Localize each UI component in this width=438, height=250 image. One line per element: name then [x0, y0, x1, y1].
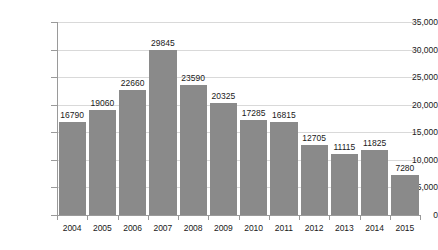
- bar[interactable]: [180, 85, 207, 215]
- x-axis-tick: [269, 215, 270, 220]
- bar-value-label: 23590: [174, 74, 213, 83]
- x-axis-tick: [390, 215, 391, 220]
- x-axis-tick: [57, 215, 58, 220]
- x-axis-tick: [148, 215, 149, 220]
- x-axis-tick: [208, 215, 209, 220]
- bar-value-label: 22660: [113, 79, 152, 88]
- plot-area: [57, 22, 420, 215]
- bar-value-label: 16790: [53, 111, 92, 120]
- x-axis-label: 2007: [148, 224, 178, 233]
- x-axis-label: 2004: [57, 224, 87, 233]
- x-axis-tick: [420, 215, 421, 220]
- x-axis-label: 2006: [118, 224, 148, 233]
- bar[interactable]: [89, 110, 116, 215]
- bar-value-label: 16815: [264, 111, 303, 120]
- bar[interactable]: [301, 145, 328, 215]
- bar-chart: 05,00010,00015,00020,00025,00030,00035,0…: [0, 0, 438, 250]
- bar-value-label: 7280: [385, 164, 424, 173]
- x-axis-label: 2011: [269, 224, 299, 233]
- bar[interactable]: [391, 175, 418, 215]
- bar-value-label: 12705: [295, 134, 334, 143]
- x-axis-tick: [87, 215, 88, 220]
- bar-value-label: 11825: [355, 139, 394, 148]
- bar[interactable]: [149, 50, 176, 215]
- bar[interactable]: [331, 154, 358, 215]
- x-axis-label: 2005: [87, 224, 117, 233]
- x-axis-label: 2010: [239, 224, 269, 233]
- bar[interactable]: [210, 103, 237, 215]
- x-axis-label: 2015: [390, 224, 420, 233]
- bar[interactable]: [59, 122, 86, 215]
- x-axis-tick: [118, 215, 119, 220]
- x-axis-label: 2009: [208, 224, 238, 233]
- x-axis-label: 2014: [360, 224, 390, 233]
- x-axis-label: 2012: [299, 224, 329, 233]
- bar[interactable]: [240, 120, 267, 215]
- x-axis-tick: [329, 215, 330, 220]
- x-axis-tick: [178, 215, 179, 220]
- bar-value-label: 20325: [204, 92, 243, 101]
- x-axis-label: 2008: [178, 224, 208, 233]
- bar[interactable]: [119, 90, 146, 215]
- bar-value-label: 29845: [143, 39, 182, 48]
- bar[interactable]: [361, 150, 388, 215]
- x-axis-label: 2013: [329, 224, 359, 233]
- x-axis-tick: [360, 215, 361, 220]
- x-axis-tick: [299, 215, 300, 220]
- x-axis-tick: [239, 215, 240, 220]
- bar-value-label: 19060: [83, 99, 122, 108]
- bar[interactable]: [270, 122, 297, 215]
